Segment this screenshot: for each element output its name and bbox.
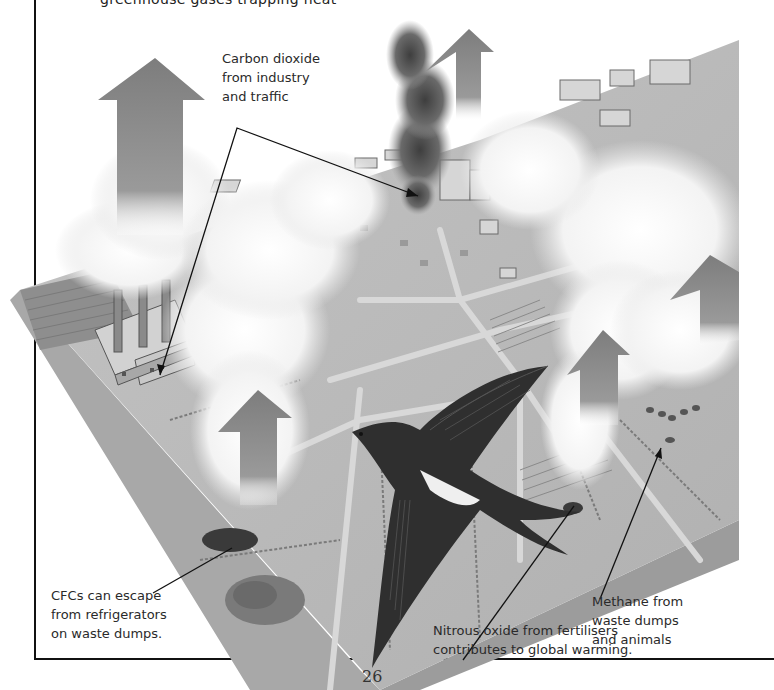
label-cfcs: CFCs can escape from refrigerators on wa… [51,586,167,643]
label-carbon-dioxide: Carbon dioxide from industry and traffic [222,49,320,106]
label-nitrous-oxide: Nitrous oxide from fertilisers contribut… [433,621,632,659]
page-number: 26 [362,667,382,686]
top-text-partial: greenhouse gases trapping heat [100,0,336,7]
